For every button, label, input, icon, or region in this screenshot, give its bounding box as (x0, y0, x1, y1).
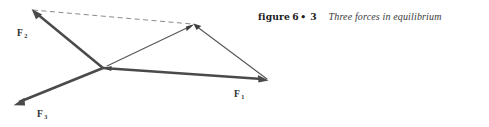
caption-title: Three forces in equilibrium (329, 11, 442, 22)
force-vector-f2-line (36, 13, 103, 68)
force-label-f1-subscript: 1 (241, 93, 244, 100)
force-label-f3: F (37, 109, 43, 119)
figure-caption: figure6•3Three forces in equilibrium (258, 6, 486, 24)
caption-figure-word: figure (258, 11, 290, 22)
force-vector-f3-line (19, 68, 103, 102)
caption-separator-dot: • (300, 11, 306, 22)
force-label-f1: F (234, 89, 240, 99)
caption-chapter-number: 6 (292, 11, 298, 22)
resultant-diagonal-arrowhead-end-icon (186, 24, 194, 31)
figure-page: F 2 F 3 F 1 figure6•3Three forces in equ… (0, 0, 489, 127)
force-vector-diagram: F 2 F 3 F 1 (0, 0, 289, 127)
force-vector-f1-line (103, 68, 262, 79)
force-vector-f3-arrowhead-icon (14, 98, 26, 106)
dashed-closure-line (33, 10, 192, 24)
force-label-f2-subscript: 2 (24, 32, 27, 39)
resultant-diagonal-line (107, 26, 191, 66)
thin-side-line (196, 26, 267, 79)
caption-figure-number: 3 (310, 11, 316, 22)
force-label-f3-subscript: 3 (44, 113, 47, 120)
force-label-f2: F (17, 28, 23, 38)
